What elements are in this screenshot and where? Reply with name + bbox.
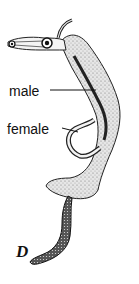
panel-letter: D bbox=[16, 242, 28, 262]
female-label: female bbox=[7, 122, 49, 136]
male-worm bbox=[8, 35, 120, 199]
male-label: male bbox=[9, 84, 39, 98]
